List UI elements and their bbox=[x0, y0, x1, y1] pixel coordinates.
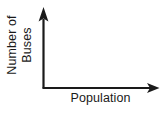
y-axis-label-text: Number of Buses bbox=[5, 15, 35, 74]
y-axis-label: Number of Buses bbox=[0, 0, 40, 90]
x-axis-label: Population bbox=[43, 91, 158, 105]
y-axis-label-line-1: Number of bbox=[5, 15, 20, 74]
axes-diagram: Number of Buses Population bbox=[0, 0, 168, 118]
y-axis-label-line-2: Buses bbox=[20, 15, 35, 74]
